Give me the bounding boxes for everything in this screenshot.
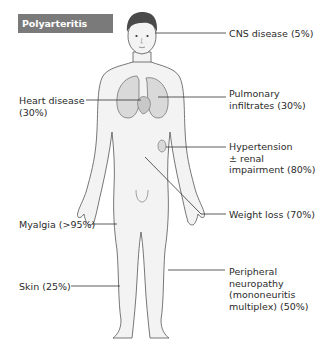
- label-peripheral-neuropathy: Peripheral neuropathy (mononeuritis mult…: [229, 266, 309, 312]
- label-cns-disease: CNS disease (5%): [229, 28, 313, 40]
- label-skin: Skin (25%): [19, 281, 71, 293]
- label-myalgia: Myalgia (>95%): [19, 219, 95, 231]
- label-pulmonary-infiltrates: Pulmonary infiltrates (30%): [229, 88, 306, 111]
- label-heart-disease: Heart disease (30%): [19, 95, 85, 118]
- kidney: [158, 140, 166, 152]
- body-silhouette: [77, 52, 204, 338]
- label-hypertension: Hypertension ± renal impairment (80%): [229, 141, 316, 176]
- head: [127, 12, 157, 54]
- label-weight-loss: Weight loss (70%): [229, 209, 315, 221]
